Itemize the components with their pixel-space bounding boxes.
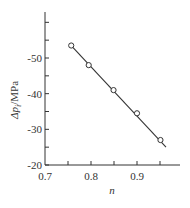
- chart: 0.70.80.9 -20-30-40-50 n Δpi/MPa: [0, 0, 190, 208]
- y-ticks: -20-30-40-50: [27, 22, 49, 171]
- y-tick-label: -40: [27, 88, 42, 100]
- y-tick-label: -20: [27, 159, 42, 171]
- data-point: [86, 63, 91, 68]
- x-tick-label: 0.8: [84, 170, 98, 182]
- y-axis-label-main: Δp: [8, 107, 20, 120]
- data-point: [69, 43, 74, 48]
- data-point: [158, 137, 163, 142]
- y-axis-label-unit: /MPa: [8, 81, 20, 105]
- x-tick-label: 0.7: [38, 170, 52, 182]
- y-tick-label: -30: [27, 123, 42, 135]
- data-point: [134, 111, 139, 116]
- series: [69, 43, 166, 147]
- x-ticks: 0.70.80.9: [38, 161, 160, 182]
- fit-line: [71, 46, 166, 148]
- x-tick-label: 0.9: [130, 170, 144, 182]
- data-point: [111, 88, 116, 93]
- y-tick-label: -50: [27, 52, 42, 64]
- x-axis-label: n: [109, 184, 115, 196]
- y-axis-label: Δpi/MPa: [8, 81, 23, 120]
